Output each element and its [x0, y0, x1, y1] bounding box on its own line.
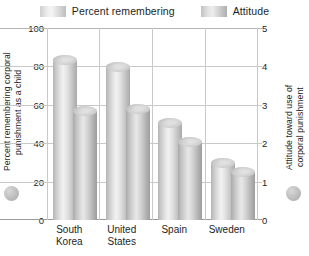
bar-south-korea-attitude	[73, 111, 97, 220]
plot-left-edge	[47, 28, 48, 220]
y-axis-left-title: Percent remembering corporal punishment …	[2, 42, 23, 182]
category-divider-2	[152, 28, 153, 220]
legend-item-percent-remembering: Percent remembering	[40, 5, 175, 17]
legend-label-percent-remembering: Percent remembering	[72, 5, 175, 17]
y-right-tick-5: 5	[262, 24, 292, 34]
x-axis-label-united-states: United States	[96, 224, 149, 247]
chart-figure: Percent remembering Attitude 100 80 60 4…	[0, 0, 309, 256]
bar-spain-attitude	[178, 142, 202, 220]
left-axis-marker-circle-icon	[4, 186, 19, 201]
category-divider-1	[99, 28, 100, 220]
x-axis-label-south-korea: South Korea	[43, 224, 96, 247]
x-axis-categories: South Korea United States Spain Sweden	[47, 224, 258, 256]
bar-sweden-attitude	[231, 172, 255, 220]
bar-cap-shade	[106, 62, 130, 72]
bar-united-states-attitude	[126, 109, 150, 220]
legend-swatch-attitude	[201, 6, 227, 17]
x-axis-label-spain: Spain	[148, 224, 201, 236]
bar-cap-shade	[73, 106, 97, 116]
legend-item-attitude: Attitude	[201, 5, 269, 17]
gridline-80	[0, 66, 262, 67]
plot-area	[47, 28, 258, 220]
right-axis-marker-circle-icon	[286, 186, 301, 201]
bar-cap-shade	[178, 137, 202, 147]
gridline-100	[0, 28, 262, 29]
y-left-tick-0: 0	[14, 216, 44, 226]
bar-cap-shade	[211, 158, 235, 168]
category-divider-3	[205, 28, 206, 220]
plot-right-edge	[257, 28, 258, 220]
bar-cap-shade	[231, 167, 255, 177]
y-right-tick-0: 0	[262, 216, 292, 226]
bar-cap-shade	[126, 104, 150, 114]
bar-cap-shade	[158, 118, 182, 128]
y-axis-right-title: Attitude toward use of corporal punishme…	[284, 70, 305, 185]
x-axis-label-sweden: Sweden	[201, 224, 254, 236]
bar-cap-shade	[53, 55, 77, 65]
